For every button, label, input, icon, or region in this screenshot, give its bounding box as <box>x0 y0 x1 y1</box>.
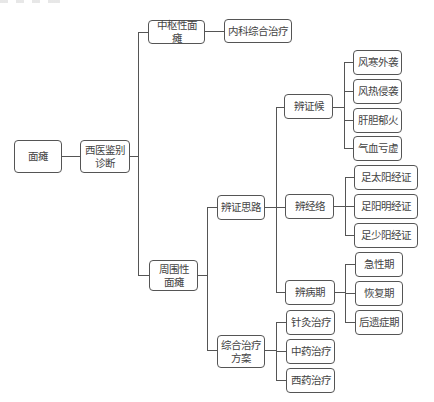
node-western-diagnosis: 西医鉴别 诊断 <box>80 140 130 173</box>
connector <box>138 275 149 276</box>
connector <box>334 206 345 207</box>
node-stage-differentiation: 辨病期 <box>285 280 335 305</box>
connector <box>265 207 276 208</box>
node-yangming-meridian: 足阳明经证 <box>354 194 418 219</box>
connector <box>130 156 138 157</box>
connector <box>344 148 353 149</box>
connector <box>276 207 285 208</box>
cropped-caption <box>0 0 70 3</box>
node-qi-blood-deficiency: 气血亏虚 <box>353 136 402 161</box>
node-western-medicine: 西药治疗 <box>286 368 335 393</box>
connector <box>207 207 217 208</box>
connector <box>198 275 207 276</box>
connector <box>207 350 217 351</box>
flowchart-diagram: 面瘫 西医鉴别 诊断 中枢性面瘫 内科综合治疗 周围性 面瘫 辨证思路 综合治疗… <box>0 0 434 402</box>
node-wind-heat: 风热侵袭 <box>353 79 402 104</box>
connector <box>205 31 224 32</box>
connector <box>344 91 353 92</box>
connector <box>333 107 344 108</box>
connector <box>276 380 286 381</box>
node-chinese-medicine: 中药治疗 <box>286 339 335 364</box>
connector <box>335 292 345 293</box>
node-wind-cold: 风寒外袭 <box>353 50 402 75</box>
connector <box>344 62 345 149</box>
connector <box>62 156 80 157</box>
connector <box>276 107 277 293</box>
connector <box>276 292 285 293</box>
node-shaoyang-meridian: 足少阳经证 <box>354 223 418 248</box>
node-meridian-differentiation: 辨经络 <box>285 194 334 219</box>
connector <box>207 207 208 351</box>
node-internal-treatment: 内科综合治疗 <box>224 19 292 43</box>
connector <box>276 351 286 352</box>
node-sequela-stage: 后遗症期 <box>355 310 403 335</box>
node-root: 面瘫 <box>14 140 62 173</box>
connector <box>276 322 286 323</box>
node-acupuncture: 针灸治疗 <box>286 310 335 335</box>
node-taiyang-meridian: 足太阳经证 <box>354 165 418 190</box>
connector <box>345 206 354 207</box>
connector <box>276 107 284 108</box>
connector <box>138 32 148 33</box>
connector <box>345 235 354 236</box>
connector <box>344 120 353 121</box>
node-syndrome-differentiation: 辨证候 <box>284 94 333 119</box>
connector <box>265 350 276 351</box>
connector <box>344 62 353 63</box>
connector <box>345 264 355 265</box>
node-recovery-stage: 恢复期 <box>355 281 403 306</box>
connector <box>345 293 355 294</box>
node-acute-stage: 急性期 <box>355 252 403 277</box>
connector <box>345 177 354 178</box>
node-peripheral-facial-paralysis: 周围性 面瘫 <box>149 260 198 291</box>
node-differentiation-approach: 辨证思路 <box>217 195 265 220</box>
connector <box>138 32 139 276</box>
node-comprehensive-plan: 综合治疗 方案 <box>217 335 265 368</box>
connector <box>345 322 355 323</box>
node-central-facial-paralysis: 中枢性面瘫 <box>148 20 205 44</box>
node-liver-gallbladder-fire: 肝胆郁火 <box>353 108 402 133</box>
